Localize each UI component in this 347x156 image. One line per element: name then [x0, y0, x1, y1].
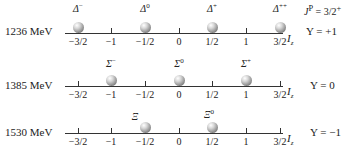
particle-sigma-zero [174, 75, 185, 86]
tick-label: −3/2 [63, 36, 93, 47]
hypercharge-label: Y = +1 [306, 25, 337, 37]
tick [246, 28, 247, 33]
tick-label: 1 [231, 136, 261, 147]
tick-label: −1/2 [130, 136, 160, 147]
iz-axis-label: Iz [287, 85, 293, 100]
tick-label: −1/2 [130, 89, 160, 100]
tick [78, 128, 79, 133]
particle-sigma-minus [106, 75, 117, 86]
tick [179, 128, 180, 133]
tick-label: 1/2 [197, 136, 227, 147]
tick [145, 81, 146, 86]
mass-label: 1236 MeV [5, 25, 52, 37]
tick [111, 128, 112, 133]
iz-axis [65, 33, 283, 34]
tick-label: −1/2 [130, 36, 160, 47]
particle-label-xi-minus: Ξ [123, 110, 147, 122]
particle-label-xi-zero: Ξ0 [197, 108, 221, 120]
tick [246, 128, 247, 133]
tick [280, 128, 281, 133]
tick-label: 1/2 [197, 89, 227, 100]
mass-label: 1530 MeV [5, 126, 52, 138]
iz-axis [65, 133, 283, 134]
tick-label: 1/2 [197, 36, 227, 47]
particle-label-delta-minus: Δ− [66, 2, 90, 14]
particle-delta-zero [140, 22, 151, 33]
tick [78, 81, 79, 86]
spin-parity-label: JP = 3/2+ [304, 4, 341, 17]
tick-label: −3/2 [63, 89, 93, 100]
particle-delta-plusplus [275, 22, 286, 33]
particle-delta-plus [207, 22, 218, 33]
particle-label-sigma-zero: Σ0 [167, 57, 191, 69]
tick-label: 1 [231, 89, 261, 100]
particle-delta-minus [73, 22, 84, 33]
particle-label-delta-plus: Δ+ [200, 2, 224, 14]
tick-label: −3/2 [63, 136, 93, 147]
tick [212, 81, 213, 86]
particle-sigma-plus [241, 75, 252, 86]
tick-label: 0 [164, 36, 194, 47]
particle-label-sigma-plus: Σ+ [234, 57, 258, 69]
tick-label: −1 [96, 136, 126, 147]
particle-xi-zero [207, 122, 218, 133]
tick-label: −1 [96, 89, 126, 100]
hypercharge-label: Y = −1 [310, 126, 341, 138]
tick-label: −1 [96, 36, 126, 47]
particle-label-delta-zero: Δ0 [133, 2, 157, 14]
iz-axis-label: Iz [287, 32, 293, 47]
particle-xi-minus [140, 122, 151, 133]
tick [179, 28, 180, 33]
mass-label: 1385 MeV [5, 79, 52, 91]
particle-label-delta-plusplus: Δ++ [268, 2, 292, 14]
tick [280, 81, 281, 86]
tick-label: 0 [164, 89, 194, 100]
tick [111, 28, 112, 33]
tick-label: 0 [164, 136, 194, 147]
hypercharge-label: Y = 0 [310, 79, 335, 91]
iz-axis-label: Iz [287, 132, 293, 147]
iz-axis [65, 86, 283, 87]
tick-label: 1 [231, 36, 261, 47]
particle-label-sigma-minus: Σ− [99, 57, 123, 69]
